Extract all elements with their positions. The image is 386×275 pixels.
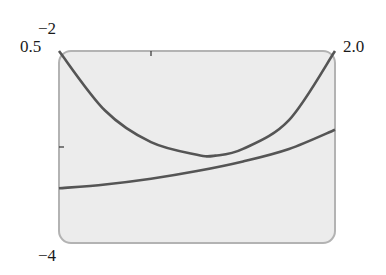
chart-plot	[0, 0, 386, 275]
